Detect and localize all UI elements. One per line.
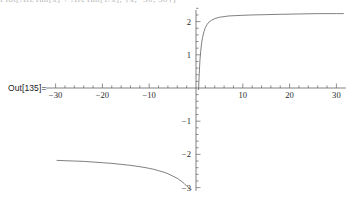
x-tick-label: −10 [142, 90, 155, 100]
plot-svg: −30−20−1010203021−1−2−3 [0, 0, 347, 209]
y-tick-label: 2 [187, 17, 191, 27]
y-tick-label: −3 [182, 183, 191, 193]
curve-branch-upper-right [199, 14, 344, 90]
x-tick-label: 10 [239, 90, 248, 100]
plot-graphic[interactable]: −30−20−1010203021−1−2−3 [0, 0, 347, 209]
notebook-output-cell: Plot[ArcTan[x] + ArcTan[1/x], {x, -30, 3… [0, 0, 347, 209]
x-tick-label: 30 [332, 90, 341, 100]
y-tick-label: −1 [182, 116, 191, 126]
x-tick-label: −30 [49, 90, 62, 100]
y-tick-label: 1 [187, 50, 191, 60]
x-tick-label: 20 [285, 90, 294, 100]
x-tick-label: −20 [96, 90, 109, 100]
y-tick-label: −2 [182, 149, 191, 159]
curve-branch-lower-left [57, 160, 191, 189]
